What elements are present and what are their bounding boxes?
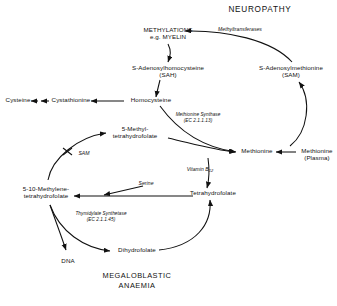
sam-inhibition-cross (63, 148, 72, 155)
title-anaemia: ANAEMIA (62, 282, 212, 290)
node-methyl-thf-line1: 5-Methyl- (122, 125, 149, 132)
node-methionine-plasma: Methionine (Plasma) (297, 148, 337, 162)
node-methionine-plasma-line1: Methionine (301, 147, 332, 154)
label-methyltransferases: Methyltransferases (205, 26, 275, 32)
label-methionine-synthase-name: Methionine Synthase (176, 112, 221, 117)
label-sam-inhibitor: SAM (72, 150, 96, 156)
label-thymidylate-synthetase: Thymidylate Synthetase (EC 2.1.1.45) (58, 211, 144, 222)
arrow-methionine-to-sam (290, 82, 307, 146)
label-vitamin-b12: Vitamin B12 (178, 166, 222, 174)
arrow-dihydrofolate-to-thf (159, 200, 210, 250)
arrow-methylenethf-to-methylthf (48, 133, 106, 180)
pathway-arrow-layer (0, 0, 337, 306)
label-thymidylate-synthetase-name: Thymidylate Synthetase (75, 211, 126, 216)
label-serine: Serine (133, 180, 159, 186)
node-sam-line1: S-Adenosylmethionine (259, 64, 323, 71)
node-sah-line2: (SAH) (108, 72, 228, 79)
label-thymidylate-synthetase-ec: (EC 2.1.1.45) (58, 217, 144, 223)
node-methyl-thf-line2: tetrahydrofolate (96, 133, 174, 140)
arrow-methylations-to-sah (168, 44, 170, 62)
node-sam: S-Adenosylmethionine (SAM) (245, 65, 337, 79)
node-methylene-thf-line1: 5-10-Methylene- (23, 185, 70, 192)
node-tetrahydrofolate: Tetrahydrofolate (185, 190, 241, 197)
node-methionine: Methionine (236, 148, 278, 155)
label-vitamin-b12-text: Vitamin B (187, 166, 209, 172)
label-methionine-synthase: Methionine Synthase (EC 2.1.1.13) (163, 112, 233, 123)
title-neuropathy: NEUROPATHY (205, 5, 315, 14)
node-sam-line2: (SAM) (245, 72, 337, 79)
node-methylene-thf-line2: tetrahydrofolate (3, 193, 89, 200)
node-cystathionine: Cystathionine (48, 97, 94, 104)
node-cysteine: Cysteine (2, 97, 34, 104)
arrow-serine-input (104, 186, 143, 195)
node-homocysteine: Homocysteine (128, 97, 174, 104)
node-sah: S-Adenosylhomocysteine (SAH) (108, 65, 228, 79)
node-dihydrofolate: Dihydrofolate (113, 247, 161, 254)
node-methylene-thf: 5-10-Methylene- tetrahydrofolate (3, 186, 89, 200)
node-methylations-line2: e.g. MYELIN (113, 34, 223, 41)
node-dna: DNA (55, 258, 81, 265)
node-methionine-plasma-line2: (Plasma) (297, 155, 337, 162)
arrow-sah-to-homocysteine (156, 80, 160, 97)
label-methionine-synthase-ec: (EC 2.1.1.13) (163, 118, 233, 124)
title-megaloblastic: MEGALOBLASTIC (62, 272, 212, 280)
pathway-diagram: NEUROPATHY MEGALOBLASTIC ANAEMIA METHYLA… (0, 0, 337, 306)
node-sah-line1: S-Adenosylhomocysteine (132, 64, 204, 71)
node-methyl-thf: 5-Methyl- tetrahydrofolate (96, 126, 174, 140)
node-methylations-line1: METHYLATIONS (144, 26, 193, 33)
label-vitamin-b12-subscript: 12 (209, 168, 214, 173)
